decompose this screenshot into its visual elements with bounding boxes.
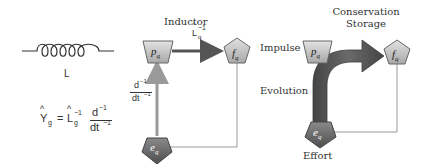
equation-frac-num-sup: −1: [99, 104, 107, 111]
h-label-sub: q: [198, 34, 201, 40]
equation-rhs-sup: −1: [74, 109, 82, 116]
right-panel-title: Conservation Storage: [326, 6, 406, 30]
node-p-sub: q: [157, 52, 161, 60]
v-label-den-sup: −1: [144, 91, 151, 97]
right-node-p-sub: q: [317, 52, 321, 60]
right-node-p-base: p: [311, 45, 317, 57]
node-e-sub: q: [155, 148, 159, 156]
right-title-line2: Storage: [326, 18, 406, 30]
label-effort: Effort: [303, 150, 332, 161]
middle-connector-lines: [157, 51, 237, 147]
equation-equals: =: [57, 112, 63, 124]
equation-frac-num: d: [92, 106, 98, 118]
equation-frac-den-sup: −1: [103, 119, 111, 126]
label-impulse: Impulse: [260, 42, 301, 53]
equation-frac-den: dt: [90, 121, 99, 133]
node-p-base: p: [151, 45, 157, 57]
label-evolution: Evolution: [260, 85, 308, 96]
v-label-num: d: [134, 80, 139, 90]
middle-node-f-label: fq: [232, 47, 239, 59]
right-node-f-sub: q: [395, 55, 399, 63]
inductor-equation: ^ Y g = ^ L g −1 d −1 dt −1: [40, 110, 150, 140]
right-node-f-label: fq: [392, 48, 399, 60]
right-node-p-label: pq: [311, 45, 320, 57]
v-label-den: dt: [132, 93, 140, 103]
h-label-base: L: [192, 28, 197, 38]
equation-lhs-base: Y: [40, 112, 47, 124]
middle-node-e-label: eq: [150, 141, 158, 153]
middle-node-p-label: pq: [151, 45, 160, 57]
vertical-arrow-label: d −1 dt −1: [130, 80, 154, 106]
inductor-coil-icon: [22, 44, 114, 56]
node-f-sub: q: [235, 54, 239, 62]
v-label-num-sup: −1: [140, 78, 147, 84]
right-node-e-sub: q: [318, 133, 322, 141]
h-label-sup: −1: [198, 24, 206, 31]
right-node-e-label: eq: [313, 126, 321, 138]
equation-lhs-sub: g: [48, 119, 52, 126]
equation-rhs-sub: g: [74, 119, 78, 126]
right-title-line1: Conservation: [326, 6, 406, 18]
equation-rhs-base: L: [67, 112, 73, 124]
inductor-symbol-label: L: [64, 68, 70, 79]
horizontal-arrow-label: ^ L q −1: [192, 26, 212, 46]
